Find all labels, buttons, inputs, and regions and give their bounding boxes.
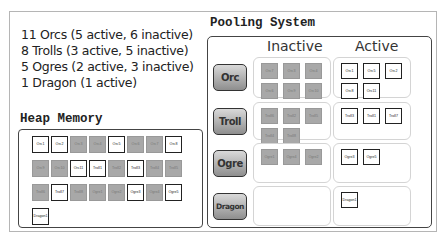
pool-tile: Troll1 <box>363 108 380 124</box>
pool-troll-active-group: Troll3Troll1Troll7 <box>333 102 411 140</box>
summary-ogres: 5 Ogres (2 active, 3 inactive) <box>21 59 194 75</box>
pool-tile: Orc1 <box>341 63 358 79</box>
pool-tile: Troll4 <box>261 128 278 144</box>
heap-tile: Troll6 <box>32 184 49 201</box>
pool-tile: Orc5 <box>363 63 380 79</box>
pool-type-dragon-button[interactable]: Dragon <box>213 193 247 220</box>
pool-tile: Orc10 <box>305 83 322 99</box>
pool-tile: Ogre5 <box>363 149 380 165</box>
heap-tile: Ogre4 <box>146 184 163 201</box>
pool-tile: Ogre2 <box>305 149 322 165</box>
pool-tile: Orc4 <box>305 63 322 79</box>
heap-tile: Troll1 <box>89 160 106 177</box>
heap-tile: Troll5 <box>165 160 182 177</box>
heap-tile: Orc2 <box>51 136 68 153</box>
pool-tile: Ogre3 <box>341 149 358 165</box>
pool-dragon-active-group: Dragon1 <box>333 186 411 226</box>
pool-tile: Troll8 <box>283 128 300 144</box>
object-count-summary: 11 Orcs (5 active, 6 inactive) 8 Trolls … <box>21 27 194 91</box>
pool-tile: Orc8 <box>341 83 358 99</box>
pool-tile: Orc6 <box>261 83 278 99</box>
heap-tile-grid: Orc1Orc2Orc3Orc4Orc5Orc6Orc7Orc8Orc9Orc1… <box>32 136 182 225</box>
pool-tile: Orc11 <box>363 83 380 99</box>
summary-orcs: 11 Orcs (5 active, 6 inactive) <box>21 27 194 43</box>
heap-tile: Orc10 <box>51 160 68 177</box>
pool-dragon-inactive-group <box>253 186 331 226</box>
pool-tile: Ogre4 <box>283 149 300 165</box>
heap-tile: Troll2 <box>108 160 125 177</box>
summary-dragon: 1 Dragon (1 active) <box>21 75 194 91</box>
pool-orc-inactive-group: Orc7Orc3Orc4Orc6Orc9Orc10 <box>253 57 331 98</box>
heap-tile: Orc8 <box>165 136 182 153</box>
pool-tile: Orc9 <box>283 83 300 99</box>
heap-tile: Troll8 <box>70 184 87 201</box>
pool-type-orc-button[interactable]: Orc <box>213 64 247 91</box>
heap-tile: Orc3 <box>70 136 87 153</box>
heap-tile: Troll7 <box>51 184 68 201</box>
heap-tile: Ogre1 <box>89 184 106 201</box>
inactive-column-header: Inactive <box>267 38 323 54</box>
pool-tile: Orc7 <box>261 63 278 79</box>
heap-tile: Troll4 <box>146 160 163 177</box>
heap-tile: Ogre2 <box>108 184 125 201</box>
heap-tile: Orc7 <box>146 136 163 153</box>
heap-tile: Dragon1 <box>32 208 49 225</box>
pool-tile: Orc3 <box>283 63 300 79</box>
heap-memory-panel: Orc1Orc2Orc3Orc4Orc5Orc6Orc7Orc8Orc9Orc1… <box>18 129 203 228</box>
heap-memory-title: Heap Memory <box>20 112 103 126</box>
summary-trolls: 8 Trolls (3 active, 5 inactive) <box>21 43 194 59</box>
heap-tile: Orc6 <box>127 136 144 153</box>
pool-orc-active-group: Orc1Orc5Orc2Orc8Orc11 <box>333 57 411 98</box>
pool-type-troll-button[interactable]: Troll <box>213 108 247 135</box>
pool-tile: Orc2 <box>385 63 402 79</box>
pool-tile: Troll2 <box>283 108 300 124</box>
heap-tile: Troll3 <box>127 160 144 177</box>
heap-tile: Orc4 <box>89 136 106 153</box>
pool-troll-inactive-group: Troll6Troll2Troll5Troll4Troll8 <box>253 102 331 140</box>
heap-tile: Orc1 <box>32 136 49 153</box>
pool-tile: Ogre1 <box>261 149 278 165</box>
pool-tile: Troll5 <box>305 108 322 124</box>
heap-tile: Orc9 <box>32 160 49 177</box>
active-column-header: Active <box>355 38 398 54</box>
pooling-system-title: Pooling System <box>210 16 315 30</box>
heap-tile: Orc5 <box>108 136 125 153</box>
pool-tile: Troll3 <box>341 108 358 124</box>
pool-type-ogre-button[interactable]: Ogre <box>213 150 247 177</box>
pool-ogre-inactive-group: Ogre1Ogre4Ogre2 <box>253 143 331 183</box>
pool-tile: Troll7 <box>385 108 402 124</box>
pool-tile: Troll6 <box>261 108 278 124</box>
heap-tile: Ogre5 <box>165 184 182 201</box>
pool-ogre-active-group: Ogre3Ogre5 <box>333 143 411 183</box>
heap-tile: Ogre3 <box>127 184 144 201</box>
heap-tile: Orc11 <box>70 160 87 177</box>
pool-tile: Dragon1 <box>341 192 358 208</box>
